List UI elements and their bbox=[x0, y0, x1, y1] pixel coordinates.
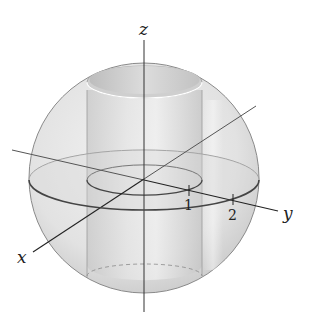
y-tick-label-1: 1 bbox=[184, 197, 193, 213]
y-axis-label: y bbox=[282, 203, 293, 223]
x-axis-label: x bbox=[17, 247, 27, 267]
diagram-canvas: z x y 1 2 bbox=[0, 0, 313, 327]
y-tick-label-2: 2 bbox=[228, 207, 237, 223]
z-axis-label: z bbox=[138, 19, 149, 39]
sphere-cylinder-diagram: z x y 1 2 bbox=[0, 0, 313, 327]
